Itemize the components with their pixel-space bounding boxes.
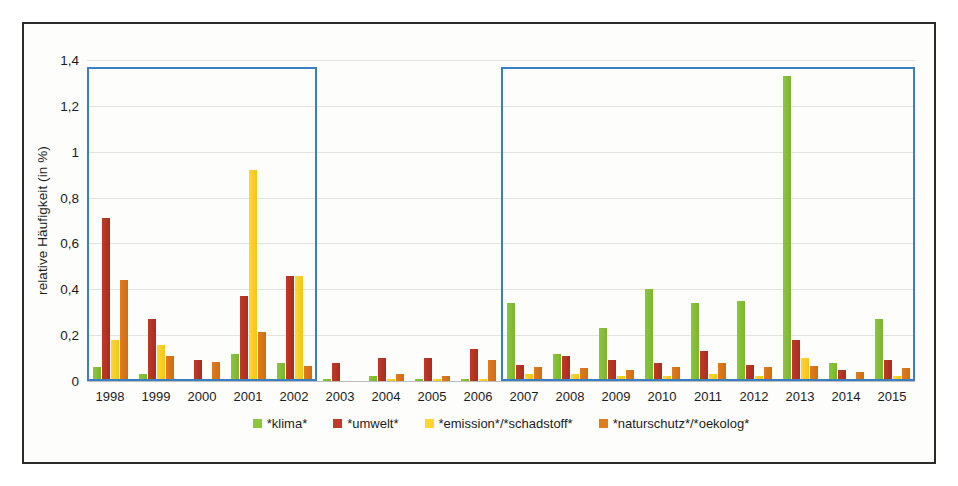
bar-2004-series-4[interactable] xyxy=(396,374,404,381)
bar-2011-series-3[interactable] xyxy=(709,374,717,381)
legend-label: *klima* xyxy=(267,416,307,431)
x-tick-label-2001: 2001 xyxy=(225,381,271,404)
x-tick-label-1999: 1999 xyxy=(133,381,179,404)
x-tick-label-2013: 2013 xyxy=(777,381,823,404)
bar-2001-series-4[interactable] xyxy=(258,332,266,381)
bar-2012-series-1[interactable] xyxy=(737,301,745,381)
y-tick-label: 0,8 xyxy=(60,190,79,205)
legend-item-3[interactable]: *emission*/*schadstoff* xyxy=(425,416,573,431)
bar-2013-series-4[interactable] xyxy=(810,366,818,381)
y-tick-label: 0 xyxy=(71,374,79,389)
bar-2010-series-1[interactable] xyxy=(645,289,653,381)
bar-2014-series-4[interactable] xyxy=(856,372,864,381)
y-tick-label: 1,2 xyxy=(60,98,79,113)
bar-1998-series-1[interactable] xyxy=(93,367,101,381)
bar-2004-series-2[interactable] xyxy=(378,358,386,381)
bar-2005-series-2[interactable] xyxy=(424,358,432,381)
bar-1999-series-4[interactable] xyxy=(166,356,174,381)
bar-2013-series-1[interactable] xyxy=(783,76,791,381)
bar-2014-series-2[interactable] xyxy=(838,370,846,381)
bar-2006-series-2[interactable] xyxy=(470,349,478,381)
bar-2010-series-4[interactable] xyxy=(672,367,680,381)
bar-2012-series-2[interactable] xyxy=(746,365,754,381)
y-tick-label: 0,6 xyxy=(60,236,79,251)
legend-label: *emission*/*schadstoff* xyxy=(439,416,573,431)
bar-2015-series-1[interactable] xyxy=(875,319,883,381)
bar-group-2006 xyxy=(455,60,501,381)
legend-item-1[interactable]: *klima* xyxy=(253,416,307,431)
bar-2002-series-1[interactable] xyxy=(277,363,285,381)
bar-group-1999 xyxy=(133,60,179,381)
x-tick-label-2003: 2003 xyxy=(317,381,363,404)
bar-group-2012 xyxy=(731,60,777,381)
bar-group-2011 xyxy=(685,60,731,381)
bar-2008-series-2[interactable] xyxy=(562,356,570,381)
bar-2006-series-4[interactable] xyxy=(488,360,496,381)
x-tick-label-2009: 2009 xyxy=(593,381,639,404)
bar-group-2015 xyxy=(869,60,915,381)
bar-2007-series-1[interactable] xyxy=(507,303,515,381)
y-tick-label: 1 xyxy=(71,144,79,159)
x-tick-label-2015: 2015 xyxy=(869,381,915,404)
bar-2009-series-2[interactable] xyxy=(608,360,616,381)
bar-1999-series-2[interactable] xyxy=(148,319,156,381)
legend-item-4[interactable]: *naturschutz*/*oekolog* xyxy=(599,416,750,431)
bar-2001-series-2[interactable] xyxy=(240,296,248,381)
bar-2000-series-4[interactable] xyxy=(212,362,220,381)
bar-2001-series-1[interactable] xyxy=(231,354,239,382)
bar-2013-series-3[interactable] xyxy=(801,358,809,381)
bar-group-2014 xyxy=(823,60,869,381)
bar-2002-series-3[interactable] xyxy=(295,276,303,381)
bar-group-2007 xyxy=(501,60,547,381)
legend-swatch-icon xyxy=(599,419,608,428)
y-axis-title: relative Häufigkeit (in %) xyxy=(32,60,52,381)
bar-2002-series-4[interactable] xyxy=(304,366,312,381)
bar-1998-series-2[interactable] xyxy=(102,218,110,381)
bar-1999-series-3[interactable] xyxy=(157,345,165,381)
x-tick-label-1998: 1998 xyxy=(87,381,133,404)
x-tick-label-2012: 2012 xyxy=(731,381,777,404)
y-tick-label: 0,2 xyxy=(60,328,79,343)
bar-2008-series-1[interactable] xyxy=(553,354,561,382)
y-tick-label: 0,4 xyxy=(60,282,79,297)
bar-group-2009 xyxy=(593,60,639,381)
x-tick-label-2007: 2007 xyxy=(501,381,547,404)
bar-2008-series-3[interactable] xyxy=(571,374,579,381)
legend-label: *naturschutz*/*oekolog* xyxy=(613,416,750,431)
bar-2011-series-4[interactable] xyxy=(718,363,726,381)
bar-2013-series-2[interactable] xyxy=(792,340,800,381)
bar-2009-series-1[interactable] xyxy=(599,328,607,381)
bar-group-2001 xyxy=(225,60,271,381)
bar-2007-series-4[interactable] xyxy=(534,367,542,381)
x-tick-label-2006: 2006 xyxy=(455,381,501,404)
x-tick-label-2000: 2000 xyxy=(179,381,225,404)
bar-2015-series-4[interactable] xyxy=(902,368,910,381)
bar-2015-series-2[interactable] xyxy=(884,360,892,381)
bar-group-2000 xyxy=(179,60,225,381)
bar-2008-series-4[interactable] xyxy=(580,368,588,381)
bar-2001-series-3[interactable] xyxy=(249,170,257,381)
bar-2011-series-1[interactable] xyxy=(691,303,699,381)
bar-2014-series-1[interactable] xyxy=(829,363,837,381)
legend-swatch-icon xyxy=(425,419,434,428)
bar-2011-series-2[interactable] xyxy=(700,351,708,381)
bar-group-2005 xyxy=(409,60,455,381)
chart-figure: relative Häufigkeit (in %) 00,20,40,60,8… xyxy=(22,22,936,464)
bar-2000-series-2[interactable] xyxy=(194,360,202,381)
bar-1998-series-3[interactable] xyxy=(111,340,119,381)
x-axis-ticks: 1998199920002001200220032004200520062007… xyxy=(87,381,915,404)
chart-legend: *klima**umwelt**emission*/*schadstoff**n… xyxy=(87,416,915,431)
bar-2007-series-3[interactable] xyxy=(525,374,533,381)
bar-2007-series-2[interactable] xyxy=(516,365,524,381)
x-tick-label-2005: 2005 xyxy=(409,381,455,404)
bar-1999-series-1[interactable] xyxy=(139,374,147,381)
bar-group-2002 xyxy=(271,60,317,381)
bar-1998-series-4[interactable] xyxy=(120,280,128,381)
bar-2010-series-2[interactable] xyxy=(654,363,662,381)
bar-2009-series-4[interactable] xyxy=(626,370,634,381)
bar-2003-series-2[interactable] xyxy=(332,363,340,381)
legend-item-2[interactable]: *umwelt* xyxy=(333,416,398,431)
x-tick-label-2011: 2011 xyxy=(685,381,731,404)
bar-2002-series-2[interactable] xyxy=(286,276,294,381)
bar-2012-series-4[interactable] xyxy=(764,367,772,381)
